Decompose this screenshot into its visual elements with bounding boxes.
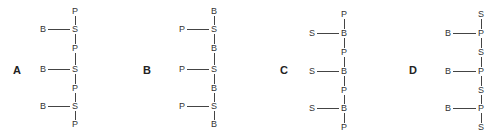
backbone-atom: B bbox=[341, 29, 347, 38]
backbone-atom: P bbox=[478, 67, 484, 76]
backbone-atom: S bbox=[478, 123, 484, 132]
horizontal-bond bbox=[187, 69, 209, 70]
horizontal-bond bbox=[48, 69, 70, 70]
branch-atom: S bbox=[309, 104, 315, 113]
backbone-atom: S bbox=[478, 48, 484, 57]
horizontal-bond bbox=[48, 106, 70, 107]
backbone-atom: S bbox=[211, 102, 217, 111]
backbone-atom: P bbox=[72, 84, 78, 93]
branch-atom: P bbox=[179, 65, 185, 74]
horizontal-bond bbox=[317, 71, 339, 72]
backbone-atom: S bbox=[72, 25, 78, 34]
horizontal-bond bbox=[187, 29, 209, 30]
branch-atom: P bbox=[179, 25, 185, 34]
backbone-atom: P bbox=[72, 120, 78, 129]
horizontal-bond bbox=[48, 29, 70, 30]
branch-atom: S bbox=[309, 29, 315, 38]
nucleic-acid-structure-diagram: A PSPSPSPBBB B BSBSBSBPPP C PBPBPBPSSS D… bbox=[0, 0, 503, 139]
backbone-atom: P bbox=[478, 104, 484, 113]
backbone-atom: B bbox=[341, 104, 347, 113]
panel-label-c: C bbox=[280, 65, 288, 76]
horizontal-bond bbox=[317, 33, 339, 34]
backbone-atom: B bbox=[211, 120, 217, 129]
backbone-atom: S bbox=[211, 25, 217, 34]
backbone-atom: S bbox=[211, 65, 217, 74]
panel-label-b: B bbox=[143, 65, 151, 76]
panel-label-a: A bbox=[13, 65, 21, 76]
backbone-atom: B bbox=[211, 84, 217, 93]
branch-atom: B bbox=[445, 29, 451, 38]
backbone-atom: B bbox=[211, 44, 217, 53]
backbone-atom: P bbox=[341, 48, 347, 57]
backbone-atom: P bbox=[72, 7, 78, 16]
branch-atom: B bbox=[40, 102, 46, 111]
backbone-atom: S bbox=[478, 10, 484, 19]
backbone-atom: S bbox=[72, 65, 78, 74]
backbone-atom: P bbox=[72, 44, 78, 53]
horizontal-bond bbox=[317, 108, 339, 109]
branch-atom: B bbox=[445, 67, 451, 76]
backbone-atom: P bbox=[341, 123, 347, 132]
panel-label-d: D bbox=[409, 65, 417, 76]
horizontal-bond bbox=[453, 108, 476, 109]
backbone-atom: B bbox=[211, 7, 217, 16]
backbone-atom: S bbox=[72, 102, 78, 111]
horizontal-bond bbox=[453, 71, 476, 72]
branch-atom: P bbox=[179, 102, 185, 111]
branch-atom: S bbox=[309, 67, 315, 76]
branch-atom: B bbox=[40, 25, 46, 34]
horizontal-bond bbox=[453, 33, 476, 34]
branch-atom: B bbox=[445, 104, 451, 113]
backbone-atom: P bbox=[341, 10, 347, 19]
backbone-atom: P bbox=[478, 29, 484, 38]
backbone-atom: P bbox=[341, 86, 347, 95]
backbone-atom: S bbox=[478, 86, 484, 95]
branch-atom: B bbox=[40, 65, 46, 74]
backbone-atom: B bbox=[341, 67, 347, 76]
horizontal-bond bbox=[187, 106, 209, 107]
